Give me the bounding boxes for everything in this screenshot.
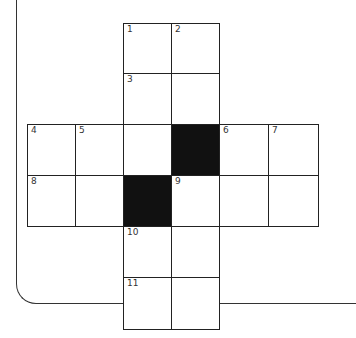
crossword-cell[interactable] <box>123 124 172 176</box>
crossword-cell[interactable]: 6 <box>219 124 269 176</box>
crossword-cell[interactable] <box>171 226 220 278</box>
crossword-cell[interactable]: 5 <box>75 124 124 176</box>
crossword-cell[interactable]: 11 <box>123 277 172 330</box>
crossword-cell[interactable]: 4 <box>27 124 76 176</box>
crossword-cell[interactable] <box>75 175 124 227</box>
clue-number: 4 <box>31 126 37 135</box>
clue-number: 3 <box>127 75 133 84</box>
clue-number: 2 <box>175 25 181 34</box>
clue-number: 9 <box>175 177 181 186</box>
clue-number: 1 <box>127 25 133 34</box>
crossword-cell[interactable]: 10 <box>123 226 172 278</box>
clue-number: 6 <box>223 126 229 135</box>
crossword-cell[interactable]: 9 <box>171 175 220 227</box>
crossword-cell[interactable]: 3 <box>123 73 172 125</box>
black-cell <box>171 124 220 176</box>
crossword-cell[interactable]: 8 <box>27 175 76 227</box>
crossword-cell[interactable] <box>171 73 220 125</box>
black-cell <box>123 175 172 227</box>
crossword-cell[interactable]: 1 <box>123 23 172 74</box>
clue-number: 11 <box>127 279 138 288</box>
crossword-cell[interactable] <box>268 175 319 227</box>
crossword-cell[interactable]: 2 <box>171 23 220 74</box>
clue-number: 5 <box>79 126 85 135</box>
crossword-cell[interactable] <box>171 277 220 330</box>
clue-number: 8 <box>31 177 37 186</box>
crossword-cell[interactable]: 7 <box>268 124 319 176</box>
crossword-cell[interactable] <box>219 175 269 227</box>
clue-number: 10 <box>127 228 138 237</box>
clue-number: 7 <box>272 126 278 135</box>
